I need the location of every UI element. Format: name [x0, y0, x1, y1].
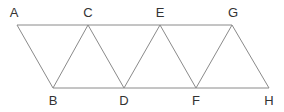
edge-FG	[196, 25, 232, 88]
vertex-label-E: E	[156, 5, 165, 20]
edge-DE	[124, 25, 160, 88]
edge-AB	[17, 25, 53, 88]
edge-EF	[160, 25, 196, 88]
edge-BC	[53, 25, 88, 88]
vertex-label-F: F	[192, 93, 200, 108]
vertex-label-D: D	[119, 93, 128, 108]
vertex-label-A: A	[10, 5, 19, 20]
edge-GH	[232, 25, 269, 88]
vertex-label-B: B	[49, 93, 58, 108]
triangle-strip-diagram: A C E G B D F H	[0, 0, 284, 112]
vertex-label-G: G	[228, 5, 238, 20]
vertex-label-C: C	[83, 5, 92, 20]
vertex-label-H: H	[264, 93, 273, 108]
edge-CD	[88, 25, 124, 88]
